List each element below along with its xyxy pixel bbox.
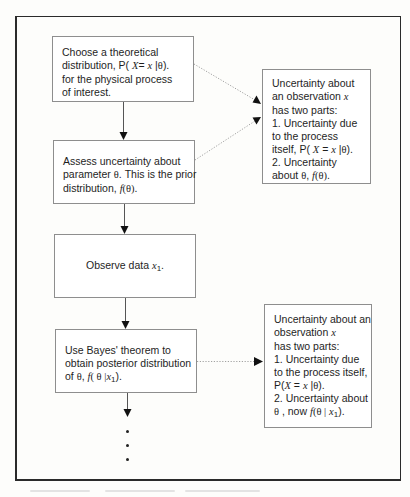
box-text: Uncertainty about anobservation xhas two…: [274, 313, 371, 419]
text-segment: x: [331, 327, 336, 338]
text-segment: has two parts:: [274, 340, 339, 352]
text-segment: (θ): [123, 183, 135, 194]
text-segment: Use Bayes' theorem to: [65, 344, 171, 356]
text-segment: ).: [347, 143, 353, 155]
text-segment: distribution, P(: [62, 59, 132, 71]
text-line: 1. Uncertainty due: [274, 353, 371, 366]
text-segment: of interest.: [62, 86, 111, 98]
continuation-dot: [126, 444, 129, 447]
text-segment: .: [327, 169, 330, 181]
step-bayes-theorem: Use Bayes' theorem toobtain posterior di…: [55, 329, 197, 393]
box-text: Assess uncertainty aboutparameter θ. Thi…: [63, 155, 194, 196]
text-segment: =: [138, 59, 147, 71]
text-segment: itself, P(: [272, 143, 313, 155]
text-segment: .: [135, 182, 138, 194]
continuation-dot: [126, 430, 129, 433]
text-line: has two parts:: [272, 104, 370, 117]
text-line: obtain posterior distribution: [65, 357, 196, 370]
text-segment: Uncertainty about an: [274, 313, 371, 325]
text-line: itself, P( X = x |θ).: [272, 143, 370, 157]
text-segment: ).: [338, 405, 344, 417]
text-segment: ( θ |: [90, 371, 106, 382]
box-text: Observe data x1.: [86, 259, 164, 273]
text-segment: ).: [116, 370, 122, 382]
text-segment: Choose a theoretical: [62, 46, 158, 58]
text-segment: =: [319, 143, 331, 155]
text-line: observation x: [274, 326, 371, 340]
text-line: 1. Uncertainty due: [272, 117, 370, 130]
text-segment: P(: [274, 379, 285, 391]
text-line: 2. Uncertainty about: [274, 392, 371, 405]
text-line: has two parts:: [274, 340, 371, 353]
text-line: P(X = x |θ).: [274, 379, 371, 393]
text-segment: 1. Uncertainty due: [274, 353, 359, 365]
text-line: Observe data x1.: [86, 259, 164, 273]
text-segment: , now: [279, 405, 310, 417]
text-line: Choose a theoretical: [62, 46, 193, 59]
text-segment: 2. Uncertainty about: [274, 392, 368, 404]
text-segment: to the process itself,: [274, 366, 367, 378]
text-segment: ).: [318, 379, 324, 391]
dotted-arrow-assess-to-uncertainty: [195, 117, 261, 160]
text-segment: 1. Uncertainty due: [272, 117, 357, 129]
bleed-through-smudge: [185, 490, 260, 492]
text-segment: obtain posterior distribution: [65, 357, 191, 369]
text-line: 2. Uncertainty: [272, 156, 370, 169]
text-line: an observation x: [272, 90, 370, 104]
text-segment: . This is the prior: [119, 168, 197, 180]
text-segment: x: [344, 91, 349, 102]
text-segment: Uncertainty about: [272, 77, 354, 89]
arrow-assess-to-observe: [121, 203, 129, 234]
text-segment: (θ): [315, 170, 327, 181]
text-line: to the process itself,: [274, 366, 371, 379]
step-assess-prior: Assess uncertainty aboutparameter θ. Thi…: [53, 140, 195, 204]
arrow-bayes-to-continuation: [124, 392, 132, 417]
text-segment: about: [272, 169, 301, 181]
note-uncertainty-prior: Uncertainty aboutan observation xhas two…: [262, 69, 371, 184]
text-line: Use Bayes' theorem to: [65, 344, 196, 357]
box-text: Uncertainty aboutan observation xhas two…: [272, 77, 370, 183]
text-segment: parameter: [63, 168, 114, 180]
text-segment: Assess uncertainty about: [63, 155, 180, 167]
arrow-observe-to-bayes: [122, 297, 130, 329]
note-uncertainty-posterior: Uncertainty about anobservation xhas two…: [264, 304, 372, 428]
text-line: to the process: [272, 130, 370, 143]
text-segment: of: [65, 370, 77, 382]
text-segment: .: [161, 259, 164, 271]
step-choose-distribution: Choose a theoreticaldistribution, P( X= …: [52, 36, 194, 102]
text-line: for the physical process: [62, 73, 193, 86]
text-line: distribution, f(θ).: [63, 182, 194, 196]
text-line: about θ, f(θ).: [272, 169, 370, 183]
text-line: θ , now f(θ | x1).: [274, 405, 371, 419]
text-segment: (θ |: [313, 406, 326, 417]
box-text: Choose a theoreticaldistribution, P( X= …: [62, 46, 193, 99]
text-line: Assess uncertainty about: [63, 155, 194, 168]
text-line: of θ, f( θ |x1).: [65, 370, 196, 384]
text-segment: distribution,: [63, 182, 120, 194]
text-segment: an observation: [272, 90, 344, 102]
text-line: parameter θ. This is the prior: [63, 168, 194, 182]
bleed-through-smudge: [105, 490, 175, 492]
text-segment: to the process: [272, 130, 338, 142]
text-segment: has two parts:: [272, 104, 337, 116]
text-segment: observation: [274, 326, 331, 338]
text-segment: for the physical process: [62, 73, 172, 85]
text-line: of interest.: [62, 86, 193, 99]
text-line: Uncertainty about: [272, 77, 370, 90]
box-text: Use Bayes' theorem toobtain posterior di…: [65, 344, 196, 384]
continuation-dot: [126, 458, 129, 461]
bleed-through-smudge: [30, 490, 90, 492]
text-line: distribution, P( X= x |θ).: [62, 59, 193, 73]
text-segment: =: [291, 379, 303, 391]
text-segment: ).: [163, 59, 169, 71]
text-segment: 2. Uncertainty: [272, 156, 337, 168]
dotted-arrow-bayes-to-uncertainty: [197, 357, 263, 366]
arrow-choose-to-assess: [120, 101, 128, 140]
step-observe-data: Observe data x1.: [54, 234, 196, 298]
text-segment: Observe data: [86, 259, 152, 271]
text-line: Uncertainty about an: [274, 313, 371, 326]
dotted-arrow-choose-to-uncertainty: [194, 64, 261, 104]
